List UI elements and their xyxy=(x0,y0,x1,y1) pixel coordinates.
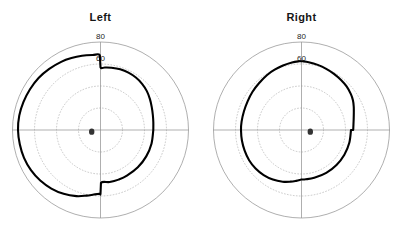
panel-left-eye: Left 80 60 xyxy=(0,0,201,241)
visual-field-figure: Left 80 60 Right xyxy=(0,0,402,241)
polar-grid-right xyxy=(214,42,390,218)
panel-title-right: Right xyxy=(201,10,402,24)
panel-right-eye: Right 80 60 xyxy=(201,0,402,241)
polar-plot-left: 80 60 xyxy=(0,26,201,234)
panel-title-left: Left xyxy=(0,10,201,24)
isopter-curve-left xyxy=(18,54,153,196)
polar-plot-right: 80 60 xyxy=(201,26,402,234)
blind-spot-marker-right xyxy=(308,128,313,134)
radial-tick-label-80: 80 xyxy=(96,32,105,41)
isopter-curve-right xyxy=(241,61,354,182)
blind-spot-marker-left xyxy=(89,128,94,134)
radial-tick-label-80: 80 xyxy=(297,32,306,41)
